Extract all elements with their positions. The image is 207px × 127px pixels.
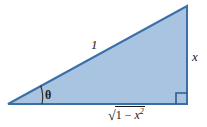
adjacent-side-label: √1 − x2 bbox=[108, 106, 145, 123]
radical-expression: √1 − x2 bbox=[108, 106, 145, 123]
radicand-group: 1 − x2 bbox=[115, 106, 145, 121]
opposite-side-label: x bbox=[192, 50, 198, 63]
radicand-prefix: 1 − bbox=[116, 108, 135, 122]
triangle-figure: 1 x θ √1 − x2 bbox=[0, 0, 207, 127]
triangle-diagram-svg bbox=[0, 0, 207, 127]
angle-theta-label: θ bbox=[45, 89, 51, 101]
triangle-shape bbox=[8, 6, 187, 104]
radicand-exponent: 2 bbox=[140, 107, 144, 116]
hypotenuse-label: 1 bbox=[91, 38, 98, 51]
